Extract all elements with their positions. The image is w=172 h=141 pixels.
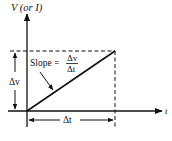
slope-diagram: V (or I) t Δv Δt Slope = Δv Δt	[0, 0, 172, 141]
slope-numerator: Δv	[67, 53, 78, 63]
y-axis-label: V (or I)	[11, 2, 43, 14]
slope-label: Slope =	[30, 58, 59, 68]
delta-t-label: Δt	[63, 115, 72, 125]
slope-denominator: Δt	[67, 64, 76, 74]
delta-v-label: Δv	[9, 77, 20, 87]
x-axis-label: t	[165, 106, 168, 116]
slope-pointer-arrow	[40, 72, 53, 90]
